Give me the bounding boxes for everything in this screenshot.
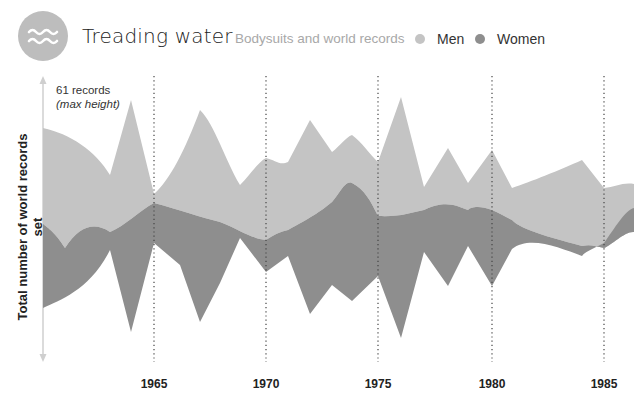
x-tick-1985: 1985 xyxy=(591,377,618,391)
max-height-note: (max height) xyxy=(56,97,120,111)
streamgraph-chart xyxy=(0,0,634,406)
y-axis-label: Total number of world records set xyxy=(15,127,45,327)
x-tick-1970: 1970 xyxy=(253,377,280,391)
x-tick-1975: 1975 xyxy=(365,377,392,391)
x-tick-1965: 1965 xyxy=(141,377,168,391)
max-height-value: 61 records xyxy=(56,84,110,96)
x-tick-1980: 1980 xyxy=(479,377,506,391)
max-height-annotation: 61 records (max height) xyxy=(56,83,120,111)
